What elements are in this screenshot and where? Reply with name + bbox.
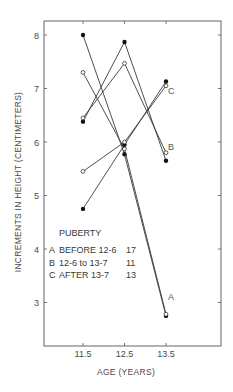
- open-point-marker: [81, 170, 85, 174]
- legend-label: 12-6 to 13-7: [59, 258, 108, 268]
- y-tick-label: 7: [34, 84, 39, 94]
- legend-title: PUBERTY: [59, 228, 101, 238]
- filled-point-marker: [164, 159, 168, 163]
- y-tick-label: 5: [34, 191, 39, 201]
- series-c-filled: [81, 79, 168, 211]
- open-point-marker: [81, 71, 85, 75]
- legend-label: BEFORE 12-6: [59, 245, 117, 255]
- legend: PUBERTY ABEFORE 12-617B12-6 to 13-711CAF…: [49, 228, 136, 280]
- series-label-c: C: [168, 86, 175, 96]
- legend-count: 13: [126, 270, 136, 280]
- line-chart: 345678 11.512.513.5 INCREMENTS IN HEIGHT…: [0, 0, 233, 392]
- open-point-marker: [81, 116, 85, 120]
- x-axis-ticks: 11.512.513.5: [75, 21, 175, 359]
- series-line: [83, 63, 166, 152]
- filled-point-marker: [164, 79, 168, 83]
- plot-border: [44, 21, 221, 346]
- open-point-marker: [123, 61, 127, 65]
- legend-count: 11: [126, 258, 135, 268]
- filled-point-marker: [81, 33, 85, 37]
- y-tick-label: 4: [34, 245, 39, 255]
- legend-entry-c: CAFTER 13-713: [49, 270, 136, 280]
- legend-entry-a: ABEFORE 12-617: [49, 245, 136, 255]
- y-tick-label: 3: [34, 298, 39, 308]
- series-label-b: B: [168, 142, 174, 152]
- legend-label: AFTER 13-7: [59, 270, 109, 280]
- x-tick-label: 11.5: [75, 349, 92, 359]
- x-axis-title: AGE (YEARS): [97, 367, 155, 377]
- legend-entry-b: B12-6 to 13-711: [49, 258, 135, 268]
- legend-key: A: [49, 245, 55, 255]
- legend-count: 17: [126, 245, 136, 255]
- series-labels: ABC: [168, 86, 175, 302]
- x-tick-label: 13.5: [157, 349, 175, 359]
- filled-point-marker: [81, 207, 85, 211]
- x-tick-label: 12.5: [116, 349, 134, 359]
- open-point-marker: [164, 312, 168, 316]
- legend-key: C: [49, 270, 56, 280]
- open-point-marker: [123, 140, 127, 144]
- legend-key: B: [49, 258, 55, 268]
- filled-point-marker: [122, 40, 126, 44]
- y-axis-title: INCREMENTS IN HEIGHT (CENTIMETERS): [13, 92, 23, 273]
- open-point-marker: [123, 147, 127, 151]
- series-label-a: A: [168, 292, 174, 302]
- y-tick-label: 8: [34, 31, 39, 41]
- y-tick-label: 6: [34, 138, 39, 148]
- plot-frame: [44, 21, 221, 346]
